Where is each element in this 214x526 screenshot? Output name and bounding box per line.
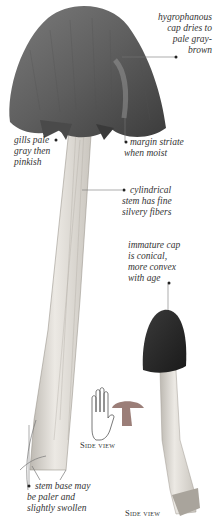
annotation-line: stem base may [35, 481, 90, 492]
annotation-line: with age [128, 273, 180, 284]
annotation-line: when moist [124, 148, 184, 159]
annotation-line: silvery fibers [122, 207, 172, 218]
caption-side-view-left: Side view [80, 440, 115, 450]
annotation-margin: margin striate when moist [130, 137, 184, 159]
annotation-line: pale gray- [140, 34, 212, 45]
annotation-cap-hygrophanous: hygrophanous cap dries to pale gray- bro… [140, 12, 212, 56]
annotation-stem-base: stem base may be paler and slightly swol… [27, 481, 90, 514]
annotation-line: cylindrical [130, 185, 172, 196]
annotation-stem: cylindrical stem has fine silvery fibers [122, 185, 172, 218]
main-stem [20, 120, 92, 490]
caption-side-view-right: Side view [125, 508, 160, 518]
annotation-immature-cap: immature cap is conical, more convex wit… [128, 240, 180, 284]
immature-mushroom [143, 310, 200, 516]
annotation-line: stem has fine [122, 196, 172, 207]
annotation-line: margin striate [130, 137, 184, 148]
annotation-line: more convex [128, 262, 180, 273]
annotation-line: immature cap [128, 240, 180, 251]
annotation-line: be paler and [27, 492, 90, 503]
annotation-line: slightly swollen [27, 503, 90, 514]
annotation-line: pinkish [14, 157, 50, 168]
annotation-line: cap dries to [140, 23, 212, 34]
annotation-line: hygrophanous [140, 12, 212, 23]
annotation-line: gills pale [14, 135, 50, 146]
annotation-line: brown [140, 45, 212, 56]
annotation-line: gray then [14, 146, 50, 157]
annotation-gills: gills pale gray then pinkish [14, 135, 50, 168]
hand-and-mushroom-scale-icon [92, 388, 144, 440]
annotation-line: is conical, [128, 251, 180, 262]
